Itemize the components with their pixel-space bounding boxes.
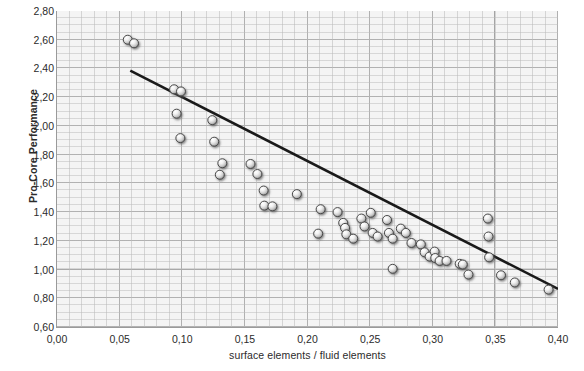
scatter-point — [208, 116, 217, 125]
scatter-point — [373, 232, 382, 241]
scatter-point — [442, 256, 451, 265]
x-tick-label: 0,25 — [345, 333, 395, 345]
scatter-point — [510, 278, 519, 287]
x-tick-label: 0,00 — [32, 333, 82, 345]
scatter-point — [268, 202, 277, 211]
scatter-point — [383, 215, 392, 224]
scatter-point — [314, 229, 323, 238]
scatter-point — [484, 232, 493, 241]
y-axis-spine — [56, 11, 57, 328]
scatter-point — [253, 170, 262, 179]
scatter-point — [176, 134, 185, 143]
scatter-point — [292, 190, 301, 199]
scatter-point — [485, 253, 494, 262]
scatter-point — [458, 260, 467, 269]
scatter-point — [349, 234, 358, 243]
scatter-point — [210, 137, 219, 146]
scatter-point — [215, 170, 224, 179]
scatter-point — [176, 87, 185, 96]
chart-figure: Pro-Core Performance 0,600,801,001,201,4… — [0, 0, 584, 371]
plot-data-layer — [57, 11, 558, 327]
y-tick-label: 2,80 — [20, 5, 54, 17]
scatter-point — [360, 222, 369, 231]
x-axis-title: surface elements / fluid elements — [57, 349, 558, 361]
y-axis-tick-labels: 0,600,801,001,201,401,601,802,002,202,40… — [14, 0, 54, 371]
y-tick-label: 2,00 — [20, 120, 54, 132]
y-tick-label: 1,80 — [20, 149, 54, 161]
scatter-point — [130, 39, 139, 48]
scatter-point — [497, 271, 506, 280]
y-tick-label: 2,40 — [20, 62, 54, 74]
x-tick-label: 0,05 — [95, 333, 145, 345]
x-tick-label: 0,20 — [283, 333, 333, 345]
y-tick-label: 1,60 — [20, 177, 54, 189]
scatter-point — [218, 159, 227, 168]
y-tick-label: 2,60 — [20, 34, 54, 46]
scatter-point — [246, 159, 255, 168]
y-tick-label: 0,80 — [20, 292, 54, 304]
y-tick-label: 2,20 — [20, 91, 54, 103]
scatter-point — [544, 285, 553, 294]
scatter-point — [172, 109, 181, 118]
scatter-point — [333, 208, 342, 217]
y-tick-label: 0,60 — [20, 321, 54, 333]
scatter-point — [388, 264, 397, 273]
x-tick-label: 0,30 — [408, 333, 458, 345]
x-tick-label: 0,35 — [470, 333, 520, 345]
scatter-points — [123, 35, 553, 294]
y-tick-label: 1,20 — [20, 235, 54, 247]
scatter-point — [259, 186, 268, 195]
scatter-point — [316, 205, 325, 214]
scatter-point — [366, 208, 375, 217]
scatter-point — [401, 228, 410, 237]
scatter-point — [483, 214, 492, 223]
y-tick-label: 1,00 — [20, 264, 54, 276]
scatter-point — [464, 270, 473, 279]
plot-area — [57, 11, 558, 327]
scatter-point — [260, 201, 269, 210]
scatter-point — [407, 238, 416, 247]
x-tick-label: 0,40 — [533, 333, 583, 345]
scatter-point — [388, 234, 397, 243]
y-tick-label: 1,40 — [20, 206, 54, 218]
x-tick-label: 0,10 — [157, 333, 207, 345]
x-tick-label: 0,15 — [220, 333, 270, 345]
x-axis-spine — [56, 327, 558, 328]
